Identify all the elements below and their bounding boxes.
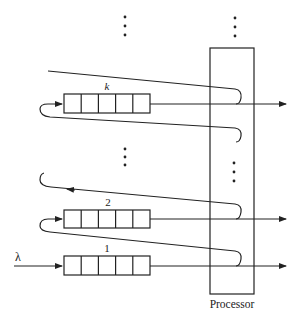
queue-1: [64, 256, 150, 275]
queue-k-label: k: [105, 80, 111, 92]
queue-k: [64, 94, 150, 113]
ellipsis-top-right: [234, 17, 237, 38]
queue-1-feedback-to-queue-2: [40, 219, 241, 266]
queue-1-label: 1: [104, 242, 110, 254]
processor-box: [210, 48, 254, 294]
queue-2: [64, 210, 150, 228]
ellipsis-top-left: [124, 16, 127, 37]
feedback-line-into-k-region: [48, 71, 241, 104]
queue-2-feedback-to-next: [40, 173, 241, 219]
arrival-rate-label: λ: [15, 250, 21, 264]
ellipsis-middle-right: [233, 162, 236, 183]
queue-2-label: 2: [105, 196, 111, 208]
processor-label: Processor: [210, 298, 255, 310]
queue-k-feedback-loop: [40, 104, 241, 142]
feedback-queue-diagram: k 2 1 λ Processor: [0, 0, 301, 321]
ellipsis-middle-left: [124, 148, 127, 167]
